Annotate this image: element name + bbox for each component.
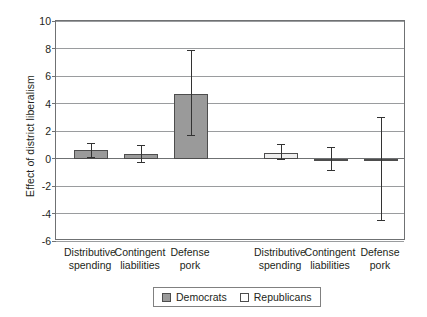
gridline--6: [56, 241, 404, 242]
x-axis-label-democrats-1: Contingentliabilities: [112, 246, 168, 271]
error-bar-cap-lower: [187, 135, 195, 136]
x-axis-label-line1: Defense: [162, 246, 218, 259]
y-tick-label-10: 10: [5, 21, 51, 22]
error-bar-cap-upper: [377, 117, 385, 118]
x-axis-label-line2: spending: [252, 259, 308, 272]
legend-entry-democrats: Democrats: [162, 291, 227, 303]
error-bar-cap-upper: [187, 50, 195, 51]
y-tick-mark--4: [52, 213, 56, 214]
y-tick-label--6: -6: [5, 241, 51, 242]
y-tick-mark--6: [52, 241, 56, 242]
error-bar-cap-lower: [327, 170, 335, 171]
x-axis-label-line2: liabilities: [302, 259, 358, 272]
legend-swatch-republicans: [240, 293, 249, 302]
legend: DemocratsRepublicans: [153, 287, 321, 307]
x-axis-label-republicans-2: Defensepork: [352, 246, 408, 271]
y-tick-mark-8: [52, 48, 56, 49]
y-tick-label-0: 0: [5, 159, 51, 160]
y-tick-label-6: 6: [5, 76, 51, 77]
gridline--2: [56, 186, 404, 187]
gridline--4: [56, 213, 404, 214]
error-bar-line: [191, 50, 192, 135]
error-bar-line: [141, 145, 142, 162]
error-bar-cap-upper: [277, 144, 285, 145]
gridline-0: [56, 158, 404, 159]
y-tick-mark-6: [52, 76, 56, 77]
gridline-4: [56, 103, 404, 104]
gridline-2: [56, 131, 404, 132]
error-bar-cap-lower: [377, 220, 385, 221]
y-tick-mark--2: [52, 186, 56, 187]
x-axis-label-line2: pork: [352, 259, 408, 272]
x-axis-label-republicans-1: Contingentliabilities: [302, 246, 358, 271]
x-axis-label-line1: Contingent: [302, 246, 358, 259]
plot-area: 1086420-2-4-6: [55, 20, 405, 240]
y-tick-mark-0: [52, 158, 56, 159]
legend-entry-republicans: Republicans: [240, 291, 312, 303]
x-axis-label-line1: Contingent: [112, 246, 168, 259]
x-axis-label-line1: Distributive: [62, 246, 118, 259]
y-tick-label-8: 8: [5, 49, 51, 50]
x-axis-label-line2: pork: [162, 259, 218, 272]
error-bar-line: [381, 117, 382, 221]
chart-figure: Effect of district liberalism 1086420-2-…: [0, 0, 427, 317]
error-bar-cap-lower: [87, 157, 95, 158]
x-axis-label-democrats-0: Distributivespending: [62, 246, 118, 271]
gridline-6: [56, 76, 404, 77]
x-axis-label-line1: Distributive: [252, 246, 308, 259]
error-bar-cap-upper: [87, 143, 95, 144]
y-tick-mark-2: [52, 131, 56, 132]
legend-swatch-democrats: [162, 293, 171, 302]
error-bar-line: [91, 143, 92, 157]
error-bar-line: [331, 147, 332, 170]
x-axis-label-line2: spending: [62, 259, 118, 272]
gridline-10: [56, 21, 404, 22]
error-bar-cap-upper: [327, 147, 335, 148]
y-tick-mark-10: [52, 21, 56, 22]
x-axis-label-republicans-0: Distributivespending: [252, 246, 308, 271]
x-axis-label-line1: Defense: [352, 246, 408, 259]
error-bar-cap-lower: [137, 162, 145, 163]
legend-label: Republicans: [254, 291, 312, 303]
error-bar-cap-lower: [277, 159, 285, 160]
error-bar-cap-upper: [137, 145, 145, 146]
y-tick-label--2: -2: [5, 186, 51, 187]
legend-label: Democrats: [176, 291, 227, 303]
x-axis-label-line2: liabilities: [112, 259, 168, 272]
y-tick-mark-4: [52, 103, 56, 104]
y-tick-label-4: 4: [5, 104, 51, 105]
y-tick-label-2: 2: [5, 131, 51, 132]
error-bar-line: [281, 144, 282, 159]
gridline-8: [56, 48, 404, 49]
y-axis-title: Effect of district liberalism: [24, 31, 36, 241]
y-tick-label--4: -4: [5, 214, 51, 215]
x-axis-label-democrats-2: Defensepork: [162, 246, 218, 271]
